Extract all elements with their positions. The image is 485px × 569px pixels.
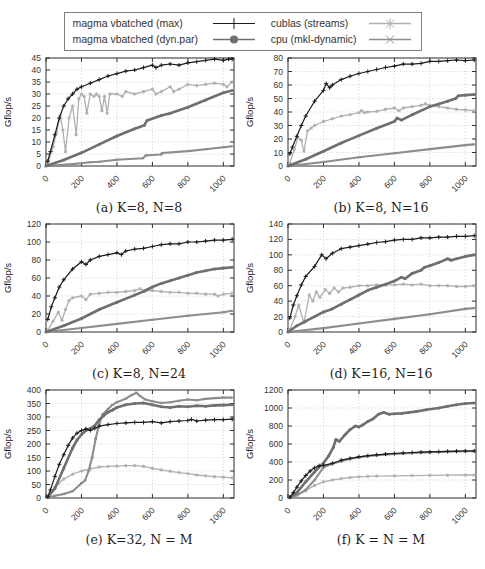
line-circle-marker-icon <box>211 32 257 47</box>
svg-text:400: 400 <box>104 505 121 522</box>
svg-text:800: 800 <box>175 339 192 356</box>
legend-label-magma-max: magma vbatched (max) <box>73 15 183 31</box>
svg-text:20: 20 <box>32 113 42 123</box>
svg-text:400: 400 <box>346 173 363 190</box>
svg-text:600: 600 <box>382 339 399 356</box>
svg-text:80: 80 <box>32 255 42 265</box>
svg-text:0: 0 <box>282 505 293 516</box>
chart-a-caption: (a) K=8, N=8 <box>36 199 242 217</box>
series-max <box>290 236 474 319</box>
chart-b-plot: 0102030405060708002004006008001000Gflop/… <box>242 53 484 199</box>
svg-text:35: 35 <box>32 77 42 87</box>
svg-text:0: 0 <box>40 505 51 516</box>
svg-text:800: 800 <box>175 505 192 522</box>
svg-text:5: 5 <box>36 149 41 159</box>
legend-box: magma vbatched (max) cublas (streams) ma… <box>64 12 422 51</box>
svg-text:40: 40 <box>32 65 42 75</box>
svg-text:600: 600 <box>140 505 157 522</box>
svg-text:0: 0 <box>36 327 41 337</box>
svg-text:1000: 1000 <box>449 173 470 194</box>
svg-text:350: 350 <box>27 399 41 409</box>
svg-text:60: 60 <box>274 281 284 291</box>
chart-plot-svg: 02004006008001000120002004006008001000Gf… <box>242 385 484 531</box>
chart-a: 05101520253035404502004006008001000Gflop… <box>0 53 242 217</box>
chart-c-caption: (c) K=8, N=24 <box>36 365 242 383</box>
chart-plot-svg: 02040608010012002004006008001000Gflop/s <box>0 219 242 365</box>
svg-text:400: 400 <box>346 339 363 356</box>
svg-text:30: 30 <box>274 121 284 131</box>
series-max <box>48 59 232 161</box>
svg-text:80: 80 <box>274 265 284 275</box>
svg-text:250: 250 <box>27 426 41 436</box>
y-axis-label: Gflop/s <box>244 429 255 459</box>
svg-text:25: 25 <box>32 101 42 111</box>
svg-text:20: 20 <box>274 312 284 322</box>
line-plus-marker-icon <box>211 16 257 31</box>
legend-label-cpu: cpu (mkl-dynamic) <box>271 31 357 47</box>
svg-text:1000: 1000 <box>264 403 283 413</box>
svg-text:1000: 1000 <box>449 505 470 526</box>
svg-text:150: 150 <box>27 453 41 463</box>
svg-text:400: 400 <box>27 385 41 395</box>
svg-text:200: 200 <box>311 173 328 190</box>
svg-text:800: 800 <box>417 173 434 190</box>
chart-d: 02040608010012014002004006008001000Gflop… <box>242 219 484 383</box>
chart-d-plot: 02040608010012014002004006008001000Gflop… <box>242 219 484 365</box>
y-axis-label: Gflop/s <box>2 429 13 459</box>
series-dynpar <box>46 90 232 166</box>
chart-c-plot: 02040608010012002004006008001000Gflop/s <box>0 219 242 365</box>
svg-text:1000: 1000 <box>207 173 228 194</box>
svg-text:40: 40 <box>32 291 42 301</box>
svg-text:0: 0 <box>278 327 283 337</box>
svg-text:200: 200 <box>311 339 328 356</box>
svg-text:15: 15 <box>32 125 42 135</box>
svg-text:120: 120 <box>27 219 41 229</box>
svg-text:0: 0 <box>40 173 51 184</box>
svg-text:70: 70 <box>274 67 284 77</box>
svg-text:600: 600 <box>382 505 399 522</box>
series-cublas <box>290 475 474 498</box>
chart-a-plot: 05101520253035404502004006008001000Gflop… <box>0 53 242 199</box>
svg-text:800: 800 <box>269 421 283 431</box>
svg-text:600: 600 <box>140 173 157 190</box>
line-xstar-marker-icon <box>367 32 413 47</box>
svg-text:10: 10 <box>274 148 284 158</box>
svg-text:20: 20 <box>32 309 42 319</box>
svg-text:200: 200 <box>69 173 86 190</box>
svg-text:400: 400 <box>104 339 121 356</box>
legend-item-magma-max: magma vbatched (max) <box>73 15 257 31</box>
svg-text:200: 200 <box>27 439 41 449</box>
chart-e-caption: (e) K=32, N = M <box>36 531 242 549</box>
svg-text:1000: 1000 <box>207 505 228 526</box>
chart-e-plot: 0501001502002503003504000200400600800100… <box>0 385 242 531</box>
svg-text:600: 600 <box>140 339 157 356</box>
chart-b-caption: (b) K=8, N=16 <box>278 199 484 217</box>
svg-text:0: 0 <box>36 493 41 503</box>
svg-text:800: 800 <box>417 505 434 522</box>
svg-text:0: 0 <box>278 161 283 171</box>
series-dynpar <box>290 403 474 498</box>
chart-d-caption: (d) K=16, N=16 <box>278 365 484 383</box>
y-axis-label: Gflop/s <box>2 263 13 293</box>
svg-text:40: 40 <box>274 107 284 117</box>
svg-text:200: 200 <box>69 505 86 522</box>
svg-text:20: 20 <box>274 134 284 144</box>
series-cublas <box>48 466 232 498</box>
svg-text:60: 60 <box>274 80 284 90</box>
svg-text:45: 45 <box>32 53 42 63</box>
y-axis-label: Gflop/s <box>244 97 255 127</box>
svg-text:200: 200 <box>69 339 86 356</box>
legend-item-cublas: cublas (streams) <box>271 15 413 31</box>
svg-text:50: 50 <box>32 480 42 490</box>
svg-text:10: 10 <box>32 137 42 147</box>
legend-item-magma-dynpar: magma vbatched (dyn.par) <box>73 31 257 47</box>
svg-text:120: 120 <box>269 234 283 244</box>
chart-f-plot: 02004006008001000120002004006008001000Gf… <box>242 385 484 531</box>
legend-item-cpu: cpu (mkl-dynamic) <box>271 31 413 47</box>
svg-text:0: 0 <box>278 493 283 503</box>
svg-text:400: 400 <box>269 457 283 467</box>
chart-b: 0102030405060708002004006008001000Gflop/… <box>242 53 484 217</box>
svg-text:100: 100 <box>27 466 41 476</box>
svg-text:1200: 1200 <box>264 385 283 395</box>
svg-text:200: 200 <box>269 475 283 485</box>
